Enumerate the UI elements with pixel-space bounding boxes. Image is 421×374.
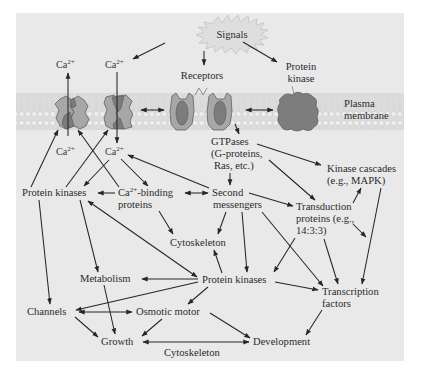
transduction-label-3: 14:3:3) (296, 225, 327, 237)
calcium-channel-2-icon (104, 95, 133, 129)
kinase-cascades-label-2: (e.g., MAPK) (327, 175, 386, 187)
gtpases-label-2: (G-proteins, (211, 148, 262, 160)
gtpases-label-1: GTPases (211, 136, 249, 147)
membrane-label-1: Plasma (344, 98, 375, 109)
protein-kinase-top-label-1: Protein (286, 61, 317, 72)
transcription-label-1: Transcription (322, 286, 379, 297)
signal-transduction-diagram: Signals Ca2+ Ca2+ Ca2+ Ca2+ Receptors Pr… (0, 0, 421, 374)
ca-binding-label-2: proteins (118, 199, 152, 210)
channels-label: Channels (27, 306, 66, 317)
ca-binding-label-1: Ca2+-binding (118, 186, 174, 198)
transduction-label-1: Transduction (296, 201, 352, 212)
second-messengers-label-2: messengers (213, 199, 262, 210)
metabolism-label: Metabolism (80, 273, 131, 284)
protein-kinase-top-label-2: kinase (287, 73, 314, 84)
growth-label: Growth (101, 336, 134, 347)
protein-kinases-left-label: Protein kinases (22, 187, 86, 198)
gtpases-label-3: Ras, etc.) (214, 160, 254, 172)
transcription-label-2: factors (322, 298, 351, 309)
calcium-channel-1-icon (55, 96, 89, 129)
transduction-label-2: proteins (e.g., (296, 213, 354, 225)
signals-label: Signals (216, 29, 247, 40)
cytoskeleton-bottom-label: Cytoskeleton (164, 347, 221, 358)
protein-kinase-membrane-icon (278, 92, 319, 131)
protein-kinases-center-label: Protein kinases (202, 274, 266, 285)
receptors-label: Receptors (181, 70, 223, 81)
osmotic-motor-label: Osmotic motor (136, 306, 200, 317)
membrane-label-2: membrane (344, 110, 389, 121)
second-messengers-label-1: Second (212, 187, 244, 198)
development-label: Development (253, 336, 310, 347)
kinase-cascades-label-1: Kinase cascades (327, 163, 396, 174)
cytoskeleton-mid-label: Cytoskeleton (170, 237, 227, 248)
